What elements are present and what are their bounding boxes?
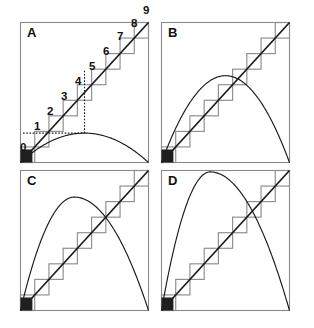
- panel-b: [162, 23, 290, 163]
- panel-label-b: B: [168, 25, 177, 40]
- step-label-2: 2: [47, 105, 53, 117]
- step-label-4: 4: [75, 75, 82, 87]
- figure-root: A0123456789BCD: [0, 0, 314, 328]
- step-label-3: 3: [61, 90, 67, 102]
- step-label-0: 0: [20, 141, 26, 153]
- origin-block-c: [21, 297, 33, 310]
- panel-a: [21, 23, 149, 163]
- step-label-7: 7: [117, 30, 123, 42]
- step-label-8: 8: [131, 17, 138, 29]
- panel-d: [162, 171, 290, 311]
- panel-label-d: D: [168, 173, 177, 188]
- panel-c: [21, 171, 149, 311]
- step-label-6: 6: [103, 45, 109, 57]
- panels-layer: [21, 23, 290, 311]
- panel-label-c: C: [27, 173, 37, 188]
- step-label-9: 9: [143, 4, 149, 16]
- panel-label-a: A: [27, 25, 37, 40]
- cobweb-figure-svg: A0123456789BCD: [0, 0, 314, 328]
- origin-block-d: [162, 297, 174, 310]
- step-label-5: 5: [89, 60, 96, 72]
- step-label-1: 1: [34, 120, 41, 132]
- origin-block-b: [162, 149, 174, 162]
